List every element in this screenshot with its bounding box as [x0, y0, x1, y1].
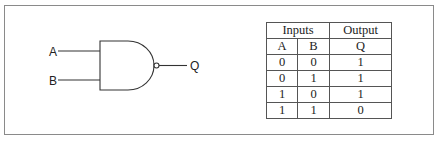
- cell-q: 1: [330, 55, 392, 71]
- table-row: 1 0 1: [267, 87, 392, 103]
- column-a-header: A: [267, 39, 298, 55]
- cell-b: 1: [298, 103, 330, 119]
- cell-a: 0: [267, 71, 298, 87]
- cell-q: 0: [330, 103, 392, 119]
- cell-a: 1: [267, 103, 298, 119]
- cell-b: 0: [298, 87, 330, 103]
- table-row: 0 1 1: [267, 71, 392, 87]
- cell-a: 1: [267, 87, 298, 103]
- truth-table-column-header: A B Q: [267, 39, 392, 55]
- inversion-bubble-icon: [154, 63, 159, 68]
- cell-a: 0: [267, 55, 298, 71]
- inputs-header: Inputs: [267, 23, 330, 39]
- cell-q: 1: [330, 71, 392, 87]
- output-header: Output: [330, 23, 392, 39]
- gate-body: [100, 41, 154, 90]
- cell-b: 0: [298, 55, 330, 71]
- input-a-label: A: [49, 46, 57, 58]
- cell-q: 1: [330, 87, 392, 103]
- truth-table-group-header: Inputs Output: [267, 23, 392, 39]
- input-b-label: B: [49, 75, 57, 87]
- output-q-label: Q: [190, 60, 199, 72]
- table-row: 0 0 1: [267, 55, 392, 71]
- column-q-header: Q: [330, 39, 392, 55]
- column-b-header: B: [298, 39, 330, 55]
- cell-b: 1: [298, 71, 330, 87]
- truth-table: Inputs Output A B Q 0 0 1 0 1 1 1 0 1 1 …: [266, 22, 392, 119]
- table-row: 1 1 0: [267, 103, 392, 119]
